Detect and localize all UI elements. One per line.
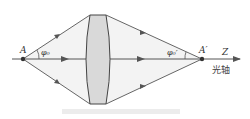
figure-caption [62, 109, 180, 114]
object-angle-label: φ₀ [41, 49, 50, 57]
image-angle-label: φ₀′ [167, 49, 178, 57]
biconvex-lens [86, 15, 110, 104]
optical-axis-caption: 光轴 [212, 66, 230, 75]
image-point [200, 57, 204, 61]
object-point [21, 57, 25, 61]
optics-diagram [0, 0, 250, 119]
image-point-label: A′ [199, 46, 208, 55]
axis-name-label: Z [222, 48, 228, 57]
object-point-label: A [20, 46, 27, 55]
